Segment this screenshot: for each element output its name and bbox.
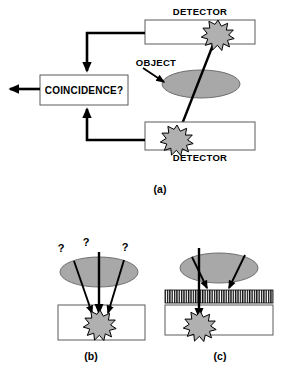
- detector-bottom-label: DETECTOR: [173, 152, 227, 163]
- question-mark-left: ?: [58, 242, 65, 254]
- caption-panel-a: (a): [154, 183, 167, 195]
- figure-root: DETECTOR OBJECT DETECTOR COINCIDENCE? (a…: [0, 0, 283, 370]
- detector-box-c[interactable]: [165, 305, 273, 335]
- collimator-bar: [165, 290, 273, 303]
- detector-top-box[interactable]: [145, 20, 255, 44]
- detector-top-label: DETECTOR: [173, 6, 227, 17]
- caption-panel-b: (b): [84, 350, 97, 362]
- object-label: OBJECT: [136, 57, 176, 68]
- question-mark-right: ?: [122, 241, 129, 253]
- detector-bottom-box[interactable]: [145, 122, 255, 150]
- question-mark-center: ?: [83, 236, 90, 248]
- caption-panel-c: (c): [214, 350, 227, 362]
- coincidence-label: COINCIDENCE?: [45, 85, 124, 96]
